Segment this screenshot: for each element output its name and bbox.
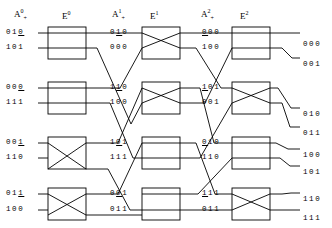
input-label-1-bit-2: 1	[18, 43, 24, 51]
link-out-010	[270, 88, 300, 108]
header-A0-sup: 0	[21, 8, 24, 14]
output-label-3-bit-2: 1	[315, 129, 321, 137]
stage2-label-3-bit-2: 1	[214, 98, 220, 106]
stage2-label-3: 001	[202, 99, 220, 107]
link-s1-0l	[180, 48, 232, 88]
stage1-label-0: 010	[110, 29, 128, 37]
input-label-7: 100	[6, 206, 24, 214]
stage1-label-1-bit-2: 0	[122, 43, 128, 51]
link-out-101	[270, 158, 300, 166]
output-label-3: 011	[303, 130, 321, 138]
stage1-label-2-bit-2: 0	[122, 83, 128, 91]
header-A2-sub: +	[211, 15, 214, 21]
link-s1-1l	[180, 48, 232, 103]
stage1-label-0-bit-2: 0	[122, 28, 128, 36]
switch-s1-2[interactable]	[142, 137, 180, 169]
stage2-label-4-bit-2: 0	[214, 138, 220, 146]
output-label-4-bit-2: 0	[315, 151, 321, 159]
header-A2-sup: 2	[208, 8, 211, 14]
output-label-0: 000	[303, 41, 321, 49]
stage2-label-1-bit-2: 0	[214, 43, 220, 51]
input-label-4: 001	[6, 139, 24, 147]
switch-s2-2[interactable]	[232, 137, 270, 169]
output-label-0-bit-2: 0	[315, 40, 321, 48]
stage2-label-2: 101	[202, 84, 220, 92]
header-A2: A2+	[201, 8, 214, 21]
stage2-label-4: 010	[202, 139, 220, 147]
header-E1-sup: 1	[156, 10, 159, 16]
input-label-0: 010	[6, 29, 24, 37]
link-out-110	[270, 193, 300, 194]
link-s0-1u	[86, 48, 142, 88]
link-s1-1u	[180, 88, 232, 143]
stage1-label-1: 000	[110, 44, 128, 52]
header-A1-sup: 1	[119, 8, 122, 14]
stage1-label-5: 111	[110, 154, 128, 162]
link-s0-1l	[86, 103, 142, 158]
input-label-2-bit-2: 0	[18, 83, 24, 91]
header-E2-sup: 2	[246, 10, 249, 16]
input-label-2: 000	[6, 84, 24, 92]
link-s1-2u	[180, 143, 232, 194]
output-label-7: 111	[303, 215, 321, 223]
input-label-7-bit-2: 0	[18, 205, 24, 213]
header-E2: E2	[240, 10, 249, 21]
stage1-label-3-bit-2: 0	[122, 98, 128, 106]
switch-s2-0[interactable]	[232, 27, 270, 59]
stage1-label-6: 001	[110, 190, 128, 198]
switch-s2-3[interactable]	[232, 188, 270, 220]
output-label-4: 100	[303, 152, 321, 160]
switch-s1-3[interactable]	[142, 188, 180, 220]
input-label-4-bit-2: 1	[18, 138, 24, 146]
input-label-6: 011	[6, 190, 24, 198]
input-label-1: 101	[6, 44, 24, 52]
network-diagram: A0+ E0 A1+ E1 A2+ E2 0101010001110011100…	[0, 0, 332, 228]
switch-s2-1[interactable]	[232, 82, 270, 114]
output-label-2-bit-2: 0	[315, 110, 321, 118]
header-E0-sup: 0	[68, 10, 71, 16]
header-A1: A1+	[112, 8, 125, 21]
output-label-5: 101	[303, 169, 321, 177]
switch-s1-1[interactable]	[142, 82, 180, 114]
link-out-100	[270, 143, 300, 149]
stage1-label-5-bit-2: 1	[122, 153, 128, 161]
input-label-3-bit-2: 1	[18, 98, 24, 106]
stage1-label-6-bit-2: 1	[122, 189, 128, 197]
stage2-label-6: 111	[202, 190, 220, 198]
stage2-label-7: 011	[202, 206, 220, 214]
stage1-label-3: 100	[110, 99, 128, 107]
input-label-5: 110	[6, 154, 24, 162]
input-label-5-bit-2: 0	[18, 153, 24, 161]
output-label-7-bit-2: 1	[315, 214, 321, 222]
header-E0: E0	[62, 10, 71, 21]
header-A1-sub: +	[122, 15, 125, 21]
link-out-001	[270, 48, 300, 58]
stage1-label-7-bit-2: 1	[122, 205, 128, 213]
stage1-label-4-bit-2: 1	[122, 138, 128, 146]
output-label-1-bit-2: 1	[315, 60, 321, 68]
header-E1: E1	[150, 10, 159, 21]
switch-s0-2[interactable]	[48, 137, 86, 169]
link-s0-3u	[86, 143, 142, 194]
input-label-3: 111	[6, 99, 24, 107]
stage2-label-0-bit-2: 0	[214, 28, 220, 36]
header-A0: A0+	[14, 8, 27, 21]
stage2-label-0: 000	[202, 29, 220, 37]
link-out-011	[270, 103, 300, 127]
output-label-5-bit-2: 1	[315, 168, 321, 176]
cross-out-a	[270, 58, 292, 88]
switch-s0-0[interactable]	[48, 27, 86, 59]
input-label-6-bit-2: 1	[18, 189, 24, 197]
switch-s0-1[interactable]	[48, 82, 86, 114]
network-wiring	[0, 0, 332, 228]
output-label-6-bit-2: 0	[315, 195, 321, 203]
switch-s1-0[interactable]	[142, 27, 180, 59]
stage2-label-1: 100	[202, 44, 220, 52]
output-label-6: 110	[303, 196, 321, 204]
stage2-label-5: 110	[202, 154, 220, 162]
stage2-label-7-bit-2: 1	[214, 205, 220, 213]
output-label-2: 010	[303, 111, 321, 119]
stage2-label-2-bit-2: 1	[214, 83, 220, 91]
header-A0-sub: +	[24, 15, 27, 21]
stage2-label-6-bit-2: 1	[214, 189, 220, 197]
